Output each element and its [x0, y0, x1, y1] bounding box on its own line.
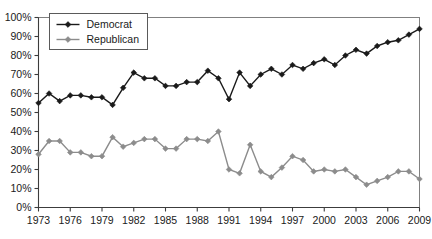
x-tick-label: 1982 — [122, 214, 146, 226]
legend-item-label[interactable]: Democrat — [87, 18, 133, 30]
x-tick-label: 1979 — [90, 214, 114, 226]
x-tick-label: 1991 — [217, 214, 241, 226]
y-tick-label: 70% — [10, 68, 31, 80]
y-tick-label: 10% — [10, 182, 31, 194]
x-tick-label: 2000 — [313, 214, 337, 226]
x-tick-label: 2003 — [344, 214, 368, 226]
x-tick-label: 1988 — [186, 214, 210, 226]
y-tick-label: 30% — [10, 144, 31, 156]
x-tick-label: 2006 — [376, 214, 400, 226]
y-tick-label: 20% — [10, 163, 31, 175]
y-tick-label: 60% — [10, 87, 31, 99]
y-tick-label: 100% — [5, 11, 32, 23]
x-tick-label: 1994 — [249, 214, 273, 226]
chart-legend: DemocratRepublican — [50, 14, 148, 50]
y-tick-label: 90% — [10, 30, 31, 42]
y-tick-label: 50% — [10, 106, 31, 118]
chart-container: 0%10%20%30%40%50%60%70%80%90%100% 197319… — [0, 0, 432, 239]
x-tick-label: 1997 — [281, 214, 305, 226]
y-tick-label: 80% — [10, 49, 31, 61]
y-tick-label: 0% — [16, 201, 31, 213]
x-tick-label: 1973 — [27, 214, 51, 226]
x-tick-label: 2009 — [408, 214, 432, 226]
x-tick-label: 1976 — [59, 214, 83, 226]
legend-item-label[interactable]: Republican — [87, 33, 140, 45]
y-tick-label: 40% — [10, 125, 31, 137]
x-tick-label: 1985 — [154, 214, 178, 226]
line-chart: 0%10%20%30%40%50%60%70%80%90%100% 197319… — [0, 0, 432, 239]
